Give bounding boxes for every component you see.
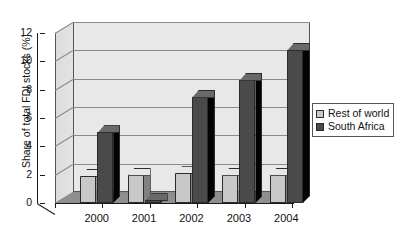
y-tick-label: 4 (10, 140, 32, 151)
bar (287, 50, 303, 203)
bar-front-face (192, 97, 208, 203)
bar-front-face (239, 80, 255, 203)
y-tick-mark (40, 146, 45, 147)
bar (239, 80, 255, 203)
x-tick-mark (150, 203, 151, 208)
y-tick-mark (40, 61, 45, 62)
y-tick-mark (40, 90, 45, 91)
x-tick-label: 2004 (263, 213, 309, 224)
y-tick-label: 0 (10, 197, 32, 208)
y-tick-label: 12 (10, 27, 32, 38)
bar-front-face (270, 175, 286, 203)
x-tick-label: 2001 (121, 213, 167, 224)
y-tick-mark (40, 175, 45, 176)
x-tick-label: 2002 (169, 213, 215, 224)
y-tick-mark (40, 203, 45, 204)
legend-item: South Africa (316, 120, 389, 133)
legend-swatch-icon (316, 110, 324, 118)
x-tick-label: 2003 (216, 213, 262, 224)
bar (222, 175, 238, 203)
bar-side-face (255, 80, 262, 203)
y-tick-mark (40, 118, 45, 119)
bar (80, 176, 96, 203)
x-tick-mark (197, 203, 198, 208)
bar-side-face (113, 132, 120, 203)
y-axis-ticks: 024681012 (8, 0, 32, 241)
bar-side-face (208, 97, 215, 203)
y-tick-mark (40, 33, 45, 34)
y-axis-diagonal (37, 203, 56, 215)
bar-front-face (80, 176, 96, 203)
bar (97, 132, 113, 203)
y-axis-line (37, 33, 38, 203)
y-tick-label: 10 (10, 55, 32, 66)
y-tick-label: 8 (10, 84, 32, 95)
x-tick-mark (292, 203, 293, 208)
legend-label: Rest of world (328, 108, 389, 119)
gridline (73, 50, 310, 51)
bar (128, 175, 144, 203)
plot-area (55, 22, 310, 203)
bar-side-face (303, 50, 310, 203)
x-tick-mark (245, 203, 246, 208)
x-tick-mark (102, 203, 103, 208)
bar-chart: Share of total FDI stocks (%) 024681012 … (0, 0, 400, 241)
gridline (73, 22, 310, 23)
bar-front-face (175, 173, 191, 203)
legend-label: South Africa (328, 121, 385, 132)
bar-front-face (128, 175, 144, 203)
y-tick-label: 2 (10, 169, 32, 180)
bar (192, 97, 208, 203)
x-axis-line (55, 203, 294, 204)
legend: Rest of worldSouth Africa (312, 103, 394, 137)
y-tick-label: 6 (10, 112, 32, 123)
bar-front-face (222, 175, 238, 203)
bar-front-face (287, 50, 303, 203)
bar (175, 173, 191, 203)
legend-item: Rest of world (316, 107, 389, 120)
bar-front-face (97, 132, 113, 203)
x-tick-mark (55, 203, 56, 208)
gridline (73, 79, 310, 80)
x-tick-label: 2000 (74, 213, 120, 224)
bar (270, 175, 286, 203)
legend-swatch-icon (316, 123, 324, 131)
